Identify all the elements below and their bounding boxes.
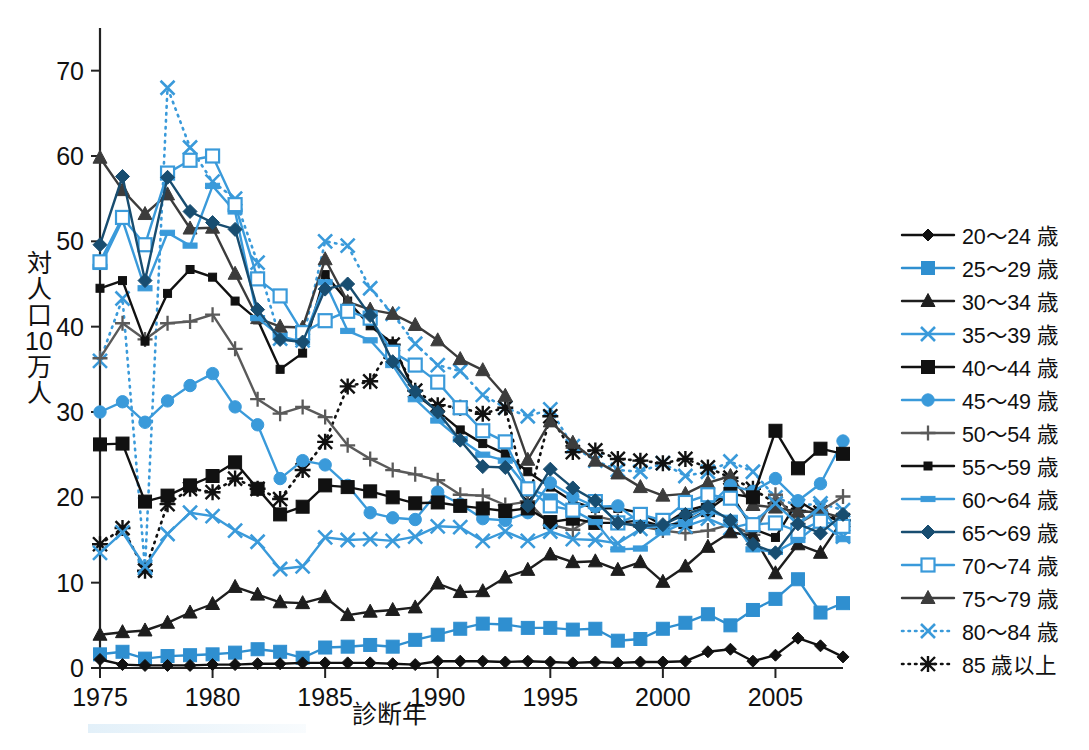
data-point (161, 395, 173, 407)
data-point (319, 641, 332, 654)
data-point (501, 450, 509, 458)
data-point (476, 452, 490, 457)
data-point (341, 305, 354, 318)
data-point (679, 655, 691, 667)
data-point (924, 462, 932, 470)
data-point (161, 527, 175, 541)
legend-label: 25～29 歳 (956, 252, 1058, 283)
data-point (566, 504, 579, 517)
data-point (431, 376, 444, 389)
data-point (589, 656, 601, 668)
data-point (632, 453, 648, 469)
data-point (186, 265, 194, 273)
data-point (837, 597, 850, 610)
data-point (921, 425, 936, 440)
data-point (477, 655, 489, 667)
legend-item[interactable]: 45～49 歳 (900, 383, 1089, 416)
data-point (922, 261, 935, 274)
data-point (431, 576, 445, 589)
data-point (409, 633, 422, 646)
data-point (273, 406, 288, 421)
data-point (521, 534, 535, 548)
legend-marker-icon (900, 521, 956, 543)
data-point (274, 289, 287, 302)
data-point (139, 238, 152, 251)
data-point (274, 508, 287, 521)
data-point (922, 393, 934, 405)
data-point (724, 619, 737, 632)
legend-item[interactable]: 60～64 歳 (900, 482, 1089, 515)
y-axis-label-char: 人 (22, 380, 56, 406)
legend-marker-icon (900, 620, 956, 642)
data-point (228, 266, 242, 279)
data-point (161, 489, 174, 502)
data-point (521, 482, 534, 495)
data-point (499, 656, 511, 668)
data-point (251, 419, 263, 431)
legend-marker-icon (900, 455, 956, 477)
data-point (362, 373, 378, 389)
data-point (791, 462, 804, 475)
data-point (837, 447, 850, 460)
legend-item[interactable]: 80～84 歳 (900, 614, 1089, 647)
data-point (251, 482, 264, 495)
legend-item[interactable]: 25～29 歳 (900, 251, 1089, 284)
data-point (183, 243, 197, 248)
data-point (634, 656, 646, 668)
legend-marker-icon (900, 422, 956, 444)
data-point (792, 495, 804, 507)
data-point (499, 504, 512, 517)
legend-item[interactable]: 50～54 歳 (900, 416, 1089, 449)
legend-item[interactable]: 35～39 歳 (900, 317, 1089, 350)
x-axis-tick-label: 1980 (185, 683, 241, 711)
legend-item[interactable]: 75～79 歳 (900, 581, 1089, 614)
data-point (251, 535, 265, 549)
data-point (521, 562, 535, 575)
legend-item[interactable]: 85 歳以上 (900, 647, 1089, 680)
data-point (814, 477, 826, 489)
legend-item[interactable]: 70～74 歳 (900, 548, 1089, 581)
legend-item[interactable]: 40～44 歳 (900, 350, 1089, 383)
legend-item[interactable]: 65～69 歳 (900, 515, 1089, 548)
data-point (771, 533, 779, 541)
data-point (814, 442, 827, 455)
data-point (814, 640, 826, 652)
legend-item[interactable]: 30～34 歳 (900, 284, 1089, 317)
data-point (250, 392, 265, 407)
legend-item[interactable]: 20～24 歳 (900, 218, 1089, 251)
data-point (231, 297, 239, 305)
legend-label: 70～74 歳 (956, 549, 1058, 580)
data-point (205, 307, 220, 322)
data-point (454, 655, 466, 667)
x-axis-tick-label: 2005 (748, 683, 804, 711)
data-point (724, 492, 737, 505)
data-point (431, 333, 445, 346)
y-axis-label-char: 口 (22, 302, 56, 328)
data-point (431, 628, 444, 641)
data-point (299, 349, 307, 357)
legend-label: 80～84 歳 (956, 615, 1058, 646)
data-point (814, 606, 827, 619)
y-axis-tick-label: 20 (56, 483, 84, 511)
legend-label: 85 歳以上 (956, 648, 1057, 679)
legend-label: 65～69 歳 (956, 516, 1058, 547)
data-point (184, 154, 197, 167)
legend-item[interactable]: 55～59 歳 (900, 449, 1089, 482)
data-point (454, 622, 467, 635)
data-point (769, 424, 782, 437)
data-point (228, 341, 243, 356)
x-axis-tick-label: 1985 (297, 683, 353, 711)
series-14 (92, 337, 851, 579)
data-point (476, 502, 489, 515)
data-point (475, 488, 490, 503)
data-point (386, 491, 399, 504)
chart-axes (100, 28, 843, 668)
data-point (657, 656, 669, 668)
legend-label: 55～59 歳 (956, 450, 1058, 481)
y-axis-tick-label: 50 (56, 227, 84, 255)
scan-artifact (88, 724, 306, 733)
data-point (921, 496, 935, 501)
y-axis-tick-label: 40 (56, 313, 84, 341)
data-point (363, 451, 378, 466)
legend-marker-icon (900, 554, 956, 576)
